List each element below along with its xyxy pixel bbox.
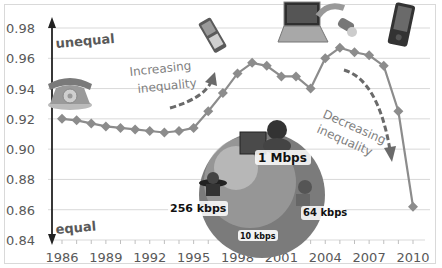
x-tick-label: 1989 [89, 250, 122, 265]
y-axis-ticks: 0.980.960.940.920.900.880.860.84 [6, 21, 35, 248]
y-tick-label: 0.84 [6, 233, 35, 248]
increasing-label-line2: inequality [137, 76, 198, 96]
y-tick-label: 0.94 [6, 82, 35, 97]
usb-modem-icon [318, 6, 357, 37]
laptop-icon [278, 2, 328, 42]
y-tick-label: 0.96 [6, 51, 35, 66]
smartphone-icon [387, 2, 415, 47]
diamond-marker [116, 123, 126, 133]
svg-text:10 kbps: 10 kbps [240, 232, 276, 241]
diamond-marker [101, 121, 111, 131]
diamond-marker [174, 126, 184, 136]
speed-label-1mbps: 1 Mbps [255, 150, 311, 165]
telephone-icon [48, 78, 92, 110]
y-tick-label: 0.86 [6, 203, 35, 218]
y-tick-label: 0.92 [6, 112, 35, 127]
y-axis-arrow [48, 17, 56, 245]
svg-text:64 kbps: 64 kbps [303, 207, 347, 218]
y-tick-label: 0.90 [6, 142, 35, 157]
diamond-marker [350, 47, 360, 57]
speed-label-10kbps: 10 kbps [238, 230, 278, 241]
svg-text:1 Mbps: 1 Mbps [258, 151, 307, 165]
diamond-marker [72, 115, 82, 125]
mobile-phone-icon [198, 17, 227, 53]
speed-label-64kbps: 64 kbps [301, 206, 347, 220]
x-tick-label: 1992 [133, 250, 166, 265]
x-tick-label: 2004 [309, 250, 342, 265]
inequality-line-chart: 0.980.960.940.920.900.880.860.84 1986198… [0, 0, 442, 268]
svg-text:256 kbps: 256 kbps [170, 202, 227, 215]
diamond-marker [145, 126, 155, 136]
diamond-marker [130, 124, 140, 134]
x-tick-label: 1995 [177, 250, 210, 265]
diamond-marker [159, 127, 169, 137]
unequal-label: unequal [55, 31, 115, 51]
x-tick-label: 2010 [396, 250, 429, 265]
x-tick-label: 2007 [353, 250, 386, 265]
x-tick-label: 1986 [45, 250, 78, 265]
y-tick-label: 0.98 [6, 21, 35, 36]
y-tick-label: 0.88 [6, 172, 35, 187]
diamond-marker [57, 114, 67, 124]
equal-label: equal [55, 219, 97, 237]
diamond-marker [86, 118, 96, 128]
diamond-marker [393, 106, 403, 116]
user-figure-top [240, 120, 291, 154]
speed-label-256kbps: 256 kbps [168, 201, 228, 216]
increasing-label-line1: Increasing [129, 59, 192, 79]
